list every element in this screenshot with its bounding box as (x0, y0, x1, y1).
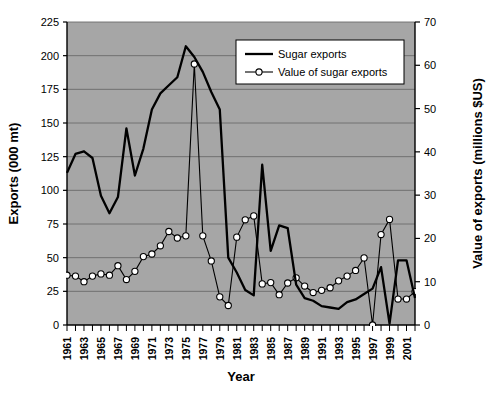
x-axis-tick-label: 1961 (61, 337, 73, 361)
data-point-marker (174, 235, 180, 241)
x-axis-tick-label: 1971 (146, 337, 158, 361)
data-point-marker (378, 231, 384, 237)
data-point-marker (285, 280, 291, 286)
data-point-marker (242, 217, 248, 223)
y-axis-title: Exports (000 mt) (6, 123, 21, 225)
x-axis-tick-label: 1977 (197, 337, 209, 361)
sugar-exports-chart: 0255075100125150175200225 01020304050607… (0, 0, 498, 393)
data-point-marker (81, 279, 87, 285)
left-axis-tick-label: 150 (41, 117, 59, 129)
data-point-marker (225, 302, 231, 308)
data-point-marker (310, 289, 316, 295)
x-axis-tick-label: 1973 (163, 337, 175, 361)
x-axis-tick-label: 1995 (350, 337, 362, 361)
legend-label-value-of-sugar-exports: Value of sugar exports (278, 66, 388, 78)
left-axis-tick-label: 100 (41, 184, 59, 196)
x-axis-tick-label: 1989 (299, 337, 311, 361)
right-axis-tick-label: 60 (424, 59, 436, 71)
x-axis-tick-label: 1963 (78, 337, 90, 361)
data-point-marker (352, 267, 358, 273)
data-point-marker (115, 263, 121, 269)
data-point-marker (327, 285, 333, 291)
data-point-marker (149, 251, 155, 257)
legend-label-sugar-exports: Sugar exports (278, 48, 347, 60)
data-point-marker (268, 279, 274, 285)
data-point-marker (344, 273, 350, 279)
data-point-marker (98, 271, 104, 277)
x-axis-tick-label: 1981 (231, 337, 243, 361)
data-point-marker (208, 258, 214, 264)
x-axis-tick-label: 1967 (112, 337, 124, 361)
right-axis-tick-label: 40 (424, 146, 436, 158)
data-point-marker (183, 233, 189, 239)
data-point-marker (234, 234, 240, 240)
x-axis-tick-label: 1969 (129, 337, 141, 361)
data-point-marker (72, 273, 78, 279)
left-axis-tick-label: 25 (47, 285, 59, 297)
x-axis-tick-label: 1997 (367, 337, 379, 361)
right-axis-tick-label: 50 (424, 103, 436, 115)
right-axis-tick-label: 0 (424, 319, 430, 331)
left-axis-tick-label: 125 (41, 151, 59, 163)
legend-swatch-value-marker (256, 69, 262, 75)
x-axis-tick-label: 1987 (282, 337, 294, 361)
x-axis-tick-label: 1991 (316, 337, 328, 361)
right-axis-tick-label: 20 (424, 232, 436, 244)
left-axis-tick-label: 0 (53, 319, 59, 331)
x-axis-tick-label: 1983 (248, 337, 260, 361)
data-point-marker (276, 292, 282, 298)
data-point-marker (89, 273, 95, 279)
right-axis-tick-label: 30 (424, 189, 436, 201)
data-point-marker (217, 294, 223, 300)
x-axis-title: Year (227, 369, 254, 384)
x-axis-tick-label: 1979 (214, 337, 226, 361)
data-point-marker (123, 276, 129, 282)
left-axis-tick-label: 75 (47, 218, 59, 230)
x-axis-tick-label: 1993 (333, 337, 345, 361)
data-point-marker (106, 272, 112, 278)
right-axis-tick-label: 70 (424, 16, 436, 28)
data-point-marker (259, 281, 265, 287)
data-point-marker (166, 228, 172, 234)
chart-canvas: 0255075100125150175200225 01020304050607… (0, 0, 498, 393)
data-point-marker (336, 278, 342, 284)
x-axis-tick-label: 1965 (95, 337, 107, 361)
left-axis-tick-label: 200 (41, 50, 59, 62)
chart-legend: Sugar exportsValue of sugar exports (236, 40, 404, 84)
data-point-marker (403, 296, 409, 302)
left-axis-tick-label: 50 (47, 252, 59, 264)
left-axis-tick-label: 175 (41, 83, 59, 95)
x-axis-tick-label: 1985 (265, 337, 277, 361)
data-point-marker (302, 283, 308, 289)
left-axis-tick-label: 225 (41, 16, 59, 28)
right-axis-tick-label: 10 (424, 276, 436, 288)
x-axis-tick-label: 1999 (384, 337, 396, 361)
y2-axis-title: Value of exports (millions $US) (470, 78, 485, 269)
x-axis-tick-label: 1975 (180, 337, 192, 361)
data-point-marker (251, 213, 257, 219)
x-axis-tick-label: 2001 (401, 337, 413, 361)
data-point-marker (319, 287, 325, 293)
data-point-marker (200, 233, 206, 239)
data-point-marker (132, 268, 138, 274)
data-point-marker (140, 254, 146, 260)
data-point-marker (157, 243, 163, 249)
data-point-marker (361, 255, 367, 261)
data-point-marker (386, 216, 392, 222)
data-point-marker (395, 296, 401, 302)
